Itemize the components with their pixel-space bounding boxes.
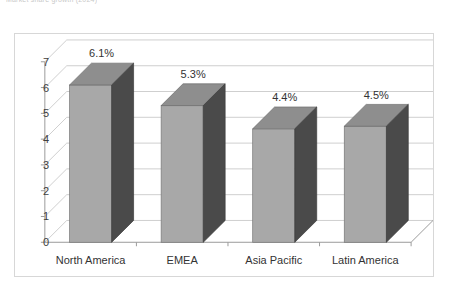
bar-value-label: 5.3% [181,68,206,80]
y-axis-tick-label: 2 [43,185,49,197]
x-axis-tick-label: EMEA [167,254,198,266]
y-axis-tick-label: 1 [43,210,49,222]
bar-value-label: 4.4% [272,91,297,103]
y-axis-tick-label: 6 [43,82,49,94]
y-axis-tick-label: 4 [43,133,49,145]
x-axis-tick-label: Asia Pacific [245,254,302,266]
y-axis-tick-label: 5 [43,107,49,119]
bar-value-label: 6.1% [89,47,114,59]
chart-title: Market share growth (2024) [6,0,97,4]
y-axis-tick-label: 7 [43,56,49,68]
y-axis-tick-label: 3 [43,159,49,171]
y-axis: 01234567 [23,34,49,276]
chart-frame: 01234567 North AmericaEMEAAsia PacificLa… [14,33,434,277]
x-axis: North AmericaEMEAAsia PacificLatin Ameri… [15,254,433,270]
y-axis-tick-label: 0 [43,236,49,248]
x-axis-tick-label: North America [56,254,126,266]
bar-value-label: 4.5% [364,89,389,101]
x-axis-tick-label: Latin America [332,254,399,266]
chart-canvas [15,34,433,276]
plot-area: 01234567 North AmericaEMEAAsia PacificLa… [15,34,433,276]
